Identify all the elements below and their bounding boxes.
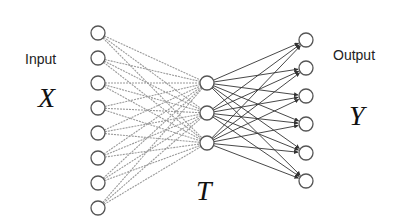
input-edge xyxy=(104,87,201,154)
output-node xyxy=(299,117,313,131)
input-edge xyxy=(105,110,201,141)
input-edge xyxy=(103,118,201,204)
hidden-node xyxy=(200,136,214,150)
output-edge xyxy=(214,84,298,95)
output-node xyxy=(299,61,313,75)
output-variable-y: Y xyxy=(349,100,365,132)
output-node xyxy=(299,33,313,47)
input-edge xyxy=(103,88,203,202)
neural-network-diagram: Input X Output Y T xyxy=(0,0,413,219)
input-edge xyxy=(104,117,201,179)
input-node xyxy=(91,201,105,215)
input-node xyxy=(91,26,105,40)
hidden-node xyxy=(200,76,214,90)
output-node xyxy=(299,146,313,160)
output-edge xyxy=(214,69,298,82)
input-edge xyxy=(105,145,201,180)
output-edge xyxy=(213,117,300,177)
input-node xyxy=(91,126,105,140)
input-edge xyxy=(103,88,202,179)
output-edge xyxy=(214,146,299,179)
hidden-to-output-edges xyxy=(212,43,301,178)
input-variable-x: X xyxy=(38,82,55,114)
input-node xyxy=(91,76,105,90)
input-to-hidden-edges xyxy=(103,36,203,204)
output-node xyxy=(299,174,313,188)
input-node xyxy=(91,151,105,165)
input-edge xyxy=(104,116,200,156)
output-edge xyxy=(213,73,300,139)
output-node xyxy=(299,89,313,103)
input-node xyxy=(91,176,105,190)
output-edge xyxy=(213,43,298,80)
input-label: Input xyxy=(25,51,56,67)
input-edge xyxy=(105,60,200,82)
input-edge xyxy=(105,108,200,112)
hidden-node xyxy=(200,106,214,120)
input-node xyxy=(91,101,105,115)
output-edge xyxy=(212,46,301,138)
hidden-variable-t: T xyxy=(196,175,212,207)
output-label: Output xyxy=(333,47,375,63)
input-node xyxy=(91,51,105,65)
